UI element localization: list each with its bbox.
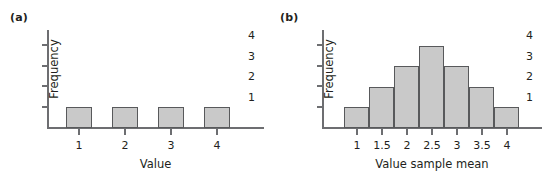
panel-b-x-axis-label: Value sample mean [322,157,542,171]
panel-a-y-tick-label-2: 2 [248,71,255,82]
panel-a-x-tick-4 [216,129,218,135]
panel-b-y-tick-label-2: 2 [526,71,533,82]
panel-b-x-tick-7 [506,129,508,135]
panel-b-y-tick-label-3: 3 [526,50,533,61]
panel-b-x-tick-5 [456,129,458,135]
panel-b-x-tick-label-4: 2.5 [423,140,441,151]
panel-b: (b) 1 2 3 4 1 1.5 [272,0,549,177]
panel-a-y-tick-label-3: 3 [248,50,255,61]
panel-a-bar-2 [112,107,138,128]
panel-a-bar-3 [158,107,184,128]
panel-b-y-axis-label: Frequency [322,24,336,114]
panel-b-bar-5 [444,66,469,128]
panel-b-x-tick-6 [481,129,483,135]
panel-b-x-tick-3 [406,129,408,135]
panel-a-y-tick-label-1: 1 [248,91,255,102]
panel-b-x-tick-label-5: 3 [454,140,461,151]
panel-b-x-tick-4 [431,129,433,135]
panel-a-x-tick-label-3: 3 [168,140,175,151]
panel-a-x-tick-2 [124,129,126,135]
panel-b-bar-3 [394,66,419,128]
panel-a-x-tick-label-4: 4 [214,140,221,151]
panel-a-label: (a) [10,11,28,24]
panel-a: (a) 1 2 3 4 1 2 3 4 [0,0,275,177]
panel-b-x-tick-1 [356,129,358,135]
figure-sampling-distribution: (a) 1 2 3 4 1 2 3 4 [0,0,549,177]
panel-a-plot-area: 1 2 3 4 1 2 3 4 Frequency Value [47,30,264,129]
panel-b-bar-2 [369,87,394,129]
panel-a-x-axis-label: Value [47,157,264,171]
panel-b-x-tick-label-1: 1 [354,140,361,151]
panel-b-x-tick-label-7: 4 [504,140,511,151]
panel-b-x-tick-label-3: 2 [404,140,411,151]
panel-a-x-tick-3 [170,129,172,135]
panel-b-x-tick-2 [381,129,383,135]
panel-a-y-axis-label: Frequency [47,24,61,114]
panel-b-y-tick-label-4: 4 [526,30,533,41]
panel-a-bar-4 [204,107,230,128]
panel-a-x-tick-label-2: 2 [122,140,129,151]
panel-b-bar-7 [494,107,519,128]
panel-a-bar-1 [66,107,92,128]
panel-a-x-tick-1 [78,129,80,135]
panel-b-plot-area: 1 2 3 4 1 1.5 2 2.5 3 [322,30,542,129]
panel-b-x-tick-label-2: 1.5 [373,140,391,151]
panel-b-bar-4 [419,46,444,129]
panel-a-x-tick-label-1: 1 [76,140,83,151]
panel-b-x-tick-label-6: 3.5 [473,140,491,151]
panel-b-label: (b) [280,11,299,24]
panel-a-y-tick-label-4: 4 [248,30,255,41]
panel-b-bar-1 [344,107,369,128]
panel-b-y-tick-label-1: 1 [526,91,533,102]
panel-b-bar-6 [469,87,494,129]
